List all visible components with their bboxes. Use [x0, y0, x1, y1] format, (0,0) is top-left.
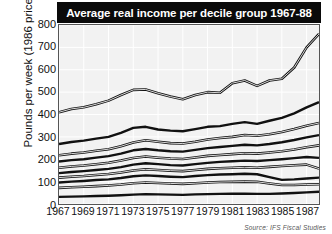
- series-line-inner: [59, 34, 319, 112]
- x-tick-label: 1981: [221, 206, 244, 217]
- y-tick-label: 700: [22, 41, 56, 52]
- x-tick-label: 1973: [121, 206, 144, 217]
- y-tick-label: 100: [22, 177, 56, 188]
- x-tick-label: 1985: [271, 206, 294, 217]
- series-line: [59, 102, 319, 144]
- chart-figure: Average real income per decile group 196…: [0, 0, 332, 234]
- y-tick-label: 500: [22, 86, 56, 97]
- chart-title: Average real income per decile group 196…: [66, 7, 312, 19]
- y-tick-label: 200: [22, 154, 56, 165]
- x-tick-label: 1983: [246, 206, 269, 217]
- y-tick-label: 800: [22, 19, 56, 30]
- x-tick-label: 1967: [46, 206, 69, 217]
- x-axis-tick-labels: 1967196919711973197519771979198119831985…: [58, 206, 320, 222]
- y-tick-label: 600: [22, 64, 56, 75]
- x-tick-label: 1969: [71, 206, 94, 217]
- chart-lines: [59, 25, 319, 204]
- x-tick-label: 1987: [296, 206, 319, 217]
- x-tick-label: 1979: [196, 206, 219, 217]
- plot-area: [58, 24, 320, 205]
- chart-title-bar: Average real income per decile group 196…: [57, 2, 321, 23]
- x-tick-label: 1977: [171, 206, 194, 217]
- y-tick-label: 300: [22, 132, 56, 143]
- series-line: [59, 34, 319, 112]
- y-tick-label: 400: [22, 109, 56, 120]
- source-note: Source: IFS Fiscal Studies: [244, 224, 326, 231]
- y-axis-tick-labels: 0100200300400500600700800: [18, 24, 56, 205]
- series-line: [59, 192, 319, 197]
- x-tick-label: 1975: [146, 206, 169, 217]
- x-tick-label: 1971: [96, 206, 119, 217]
